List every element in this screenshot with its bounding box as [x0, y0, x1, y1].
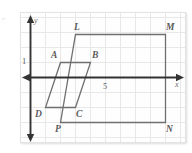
vertex-label-b: B: [92, 51, 98, 61]
axis-lines: [25, 19, 181, 139]
vertex-label-l: L: [74, 23, 80, 33]
y-unit-label: 1: [22, 57, 26, 66]
vertex-label-a: A: [51, 51, 57, 61]
y-axis-label: y: [34, 17, 38, 25]
figure-container: ⌐: [0, 0, 192, 153]
x-unit-label: 5: [103, 82, 107, 91]
x-axis-arrow-left: [22, 74, 30, 81]
shape-abcd: [46, 63, 91, 108]
vertex-label-p: P: [55, 125, 61, 135]
vertex-label-m: M: [166, 23, 174, 33]
vertex-label-c: C: [76, 110, 82, 120]
vertex-label-d: D: [35, 110, 42, 120]
crop-mark-icon: ⌐: [2, 16, 7, 23]
x-axis-label: x: [175, 81, 179, 89]
plot-frame: y x 1 5 A B C D L M N P: [20, 12, 186, 143]
coordinate-plot: [21, 13, 186, 143]
vertex-label-n: N: [166, 125, 173, 135]
